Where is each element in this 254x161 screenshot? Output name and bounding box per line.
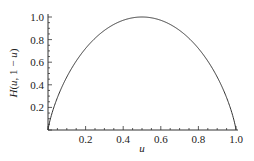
y-tick-label: 0.8 <box>30 34 44 46</box>
y-axis-label: H(u, 1 − u) <box>7 48 20 98</box>
x-tick-label: 0.2 <box>79 133 93 145</box>
x-axis-label: u <box>139 142 145 154</box>
y-tick-label: 0.6 <box>30 56 44 68</box>
entropy-curve <box>48 17 236 130</box>
y-tick-label: 1.0 <box>30 11 44 23</box>
x-axis: 0.20.40.60.81.0 <box>48 126 243 145</box>
y-tick-label: 0.2 <box>30 101 44 113</box>
x-tick-label: 1.0 <box>229 133 243 145</box>
x-tick-label: 0.6 <box>154 133 168 145</box>
y-axis: 0.20.40.60.81.0 <box>30 11 52 130</box>
x-tick-label: 0.4 <box>116 133 130 145</box>
entropy-chart: 0.20.40.60.81.0 0.20.40.60.81.0 u H(u, 1… <box>0 0 254 161</box>
x-tick-label: 0.8 <box>192 133 206 145</box>
y-tick-label: 0.4 <box>30 79 44 91</box>
